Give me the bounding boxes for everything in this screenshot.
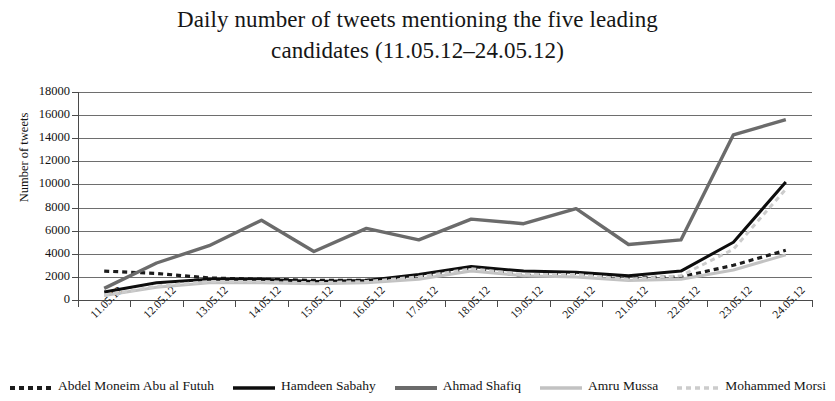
legend-label: Abdel Moneim Abu al Futuh	[58, 378, 214, 394]
y-axis-line	[78, 92, 79, 301]
legend-swatch-icon	[676, 380, 720, 392]
x-axis-tick	[655, 300, 656, 307]
legend-item[interactable]: Ahmad Shafiq	[394, 378, 521, 394]
x-axis-tick	[445, 300, 446, 307]
y-axis-tick-label: 10000	[24, 177, 70, 189]
x-axis-tick-label: 21.05.12	[613, 284, 650, 321]
y-axis-tick-label: 4000	[24, 247, 70, 259]
legend-label: Hamdeen Sabahy	[281, 378, 376, 394]
series-line	[104, 255, 786, 296]
x-axis-tick-label: 20.05.12	[560, 284, 597, 321]
x-axis-tick	[183, 300, 184, 307]
chart-title-line-1: Daily number of tweets mentioning the fi…	[0, 4, 835, 35]
legend-swatch-icon	[394, 380, 438, 392]
gridline	[78, 138, 812, 139]
series-line	[104, 120, 786, 289]
x-axis-tick	[550, 300, 551, 307]
x-axis-tick-label: 23.05.12	[717, 284, 754, 321]
gridline	[78, 161, 812, 162]
legend-item[interactable]: Mohammed Morsi	[676, 378, 826, 394]
gridline	[78, 254, 812, 255]
gridline	[78, 208, 812, 209]
legend-item[interactable]: Hamdeen Sabahy	[232, 378, 376, 394]
x-axis-tick-label: 17.05.12	[403, 284, 440, 321]
gridline	[78, 115, 812, 116]
y-axis-tick-label: 18000	[24, 85, 70, 97]
x-axis-tick	[235, 300, 236, 307]
series-line	[104, 250, 786, 280]
x-axis-tick-label: 16.05.12	[350, 284, 387, 321]
legend-label: Mohammed Morsi	[725, 378, 826, 394]
x-axis-tick	[707, 300, 708, 307]
x-axis-tick-label: 15.05.12	[298, 284, 335, 321]
y-axis-tick-label: 0	[24, 293, 70, 305]
gridline	[78, 231, 812, 232]
x-axis-tick-label: 22.05.12	[665, 284, 702, 321]
y-axis-tick-label: 2000	[24, 270, 70, 282]
x-axis-tick	[497, 300, 498, 307]
x-axis-tick	[760, 300, 761, 307]
x-axis-tick-label: 24.05.12	[770, 284, 807, 321]
y-axis-tick-label: 12000	[24, 154, 70, 166]
chart-title-line-2: candidates (11.05.12–24.05.12)	[0, 35, 835, 66]
y-axis-tick-label: 16000	[24, 108, 70, 120]
legend-label: Ahmad Shafiq	[443, 378, 521, 394]
y-axis-tick-label: 14000	[24, 131, 70, 143]
gridline	[78, 92, 812, 93]
x-axis-tick	[602, 300, 603, 307]
legend-item[interactable]: Amru Mussa	[539, 378, 658, 394]
series-line	[104, 189, 786, 295]
legend-swatch-icon	[9, 380, 53, 392]
chart-legend: Abdel Moneim Abu al FutuhHamdeen SabahyA…	[0, 374, 835, 398]
x-axis-tick-label: 19.05.12	[508, 284, 545, 321]
x-axis-tick-label: 18.05.12	[455, 284, 492, 321]
x-axis-tick	[340, 300, 341, 307]
legend-swatch-icon	[539, 380, 583, 392]
gridline	[78, 184, 812, 185]
chart-page: Daily number of tweets mentioning the fi…	[0, 0, 835, 401]
y-axis-tick-label: 6000	[24, 224, 70, 236]
legend-label: Amru Mussa	[588, 378, 658, 394]
x-axis-tick-label: 12.05.12	[141, 284, 178, 321]
x-axis-tick-label: 14.05.12	[246, 284, 283, 321]
x-axis-tick	[130, 300, 131, 307]
gridline	[78, 277, 812, 278]
y-axis-tick-label: 8000	[24, 201, 70, 213]
x-axis-tick-label: 13.05.12	[193, 284, 230, 321]
x-axis-tick	[78, 300, 79, 307]
chart-title: Daily number of tweets mentioning the fi…	[0, 4, 835, 66]
legend-item[interactable]: Abdel Moneim Abu al Futuh	[9, 378, 214, 394]
legend-swatch-icon	[232, 380, 276, 392]
series-line	[104, 182, 786, 292]
x-axis-tick	[393, 300, 394, 307]
x-axis-tick-label: 11.05.12	[88, 284, 125, 321]
x-axis-tick	[288, 300, 289, 307]
x-axis-tick	[812, 300, 813, 307]
